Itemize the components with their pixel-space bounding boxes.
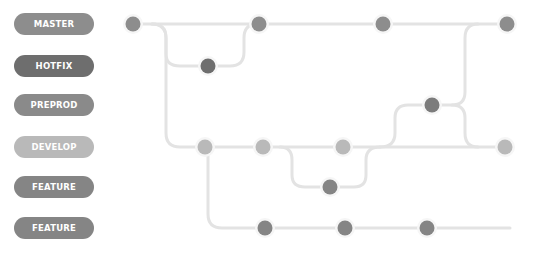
commit-node-develop-4 [495, 137, 515, 157]
branch-lines [133, 24, 510, 228]
commit-node-feature2-3 [417, 218, 437, 238]
commit-node-master-4 [497, 14, 517, 34]
git-branch-graph [0, 0, 541, 259]
commit-node-feature1-1 [320, 177, 340, 197]
commit-node-develop-1 [195, 137, 215, 157]
commit-node-feature2-2 [335, 218, 355, 238]
commit-node-feature2-1 [255, 218, 275, 238]
commit-node-develop-2 [253, 137, 273, 157]
commit-node-master-1 [123, 14, 143, 34]
commit-node-master-2 [249, 14, 269, 34]
commit-nodes [123, 14, 517, 238]
commit-node-hotfix-1 [198, 56, 218, 76]
commit-node-master-3 [373, 14, 393, 34]
commit-node-develop-3 [333, 137, 353, 157]
commit-node-preprod-1 [422, 95, 442, 115]
